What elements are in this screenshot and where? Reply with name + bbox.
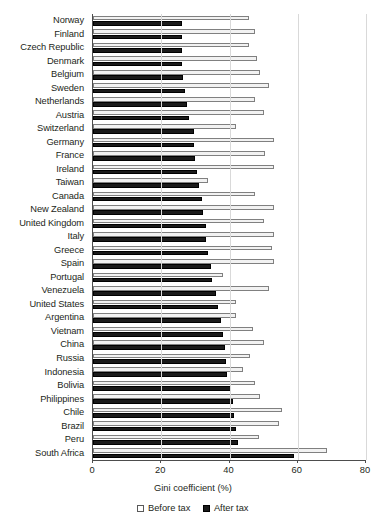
bar-after-tax <box>93 156 195 161</box>
bar-before-tax <box>93 408 282 413</box>
category-label: Italy <box>0 230 88 244</box>
category-label: Bolivia <box>0 379 88 393</box>
category-axis-labels: NorwayFinlandCzech RepublicDenmarkBelgiu… <box>0 14 88 460</box>
category-label: Denmark <box>0 55 88 69</box>
x-axis-tick-label: 40 <box>223 465 233 475</box>
bar-before-tax <box>93 367 243 372</box>
category-label: Chile <box>0 406 88 420</box>
bar-before-tax <box>93 110 264 115</box>
bar-after-tax <box>93 210 203 215</box>
category-label: China <box>0 338 88 352</box>
bar-before-tax <box>93 300 236 305</box>
bar-before-tax <box>93 421 279 426</box>
bar-before-tax <box>93 138 274 143</box>
bar-after-tax <box>93 62 182 67</box>
x-axis-tick-label: 60 <box>292 465 302 475</box>
legend-item-after-tax: After tax <box>203 503 248 513</box>
open-square-swatch-icon <box>137 505 144 512</box>
category-label: United Kingdom <box>0 217 88 231</box>
x-axis-tick-label: 80 <box>360 465 370 475</box>
bar-after-tax <box>93 183 199 188</box>
category-label: Brazil <box>0 419 88 433</box>
bar-before-tax <box>93 313 236 318</box>
category-label: Czech Republic <box>0 41 88 55</box>
bar-before-tax <box>93 259 274 264</box>
x-axis-tick <box>160 460 161 463</box>
bar-before-tax <box>93 286 269 291</box>
bar-after-tax <box>93 291 216 296</box>
bar-after-tax <box>93 116 189 121</box>
bar-before-tax <box>93 232 274 237</box>
bar-before-tax <box>93 56 257 61</box>
bar-after-tax <box>93 454 294 459</box>
legend-item-before-tax: Before tax <box>137 503 190 513</box>
bar-after-tax <box>93 413 234 418</box>
bar-after-tax <box>93 278 212 283</box>
bar-before-tax <box>93 435 259 440</box>
bar-after-tax <box>93 143 194 148</box>
x-axis-tick <box>92 460 93 463</box>
category-label: Indonesia <box>0 365 88 379</box>
category-label: Russia <box>0 352 88 366</box>
x-axis-tick-label: 20 <box>155 465 165 475</box>
bar-after-tax <box>93 197 202 202</box>
bar-after-tax <box>93 264 211 269</box>
bar-before-tax <box>93 124 236 129</box>
bar-before-tax <box>93 70 260 75</box>
legend-label-after-tax: After tax <box>214 503 249 513</box>
category-label: Switzerland <box>0 122 88 136</box>
bar-after-tax <box>93 102 187 107</box>
bar-before-tax <box>93 178 208 183</box>
x-axis-tick-label: 0 <box>89 465 94 475</box>
category-label: Vietnam <box>0 325 88 339</box>
bar-before-tax <box>93 83 269 88</box>
bar-before-tax <box>93 165 274 170</box>
bar-after-tax <box>93 89 185 94</box>
bar-after-tax <box>93 359 226 364</box>
bar-after-tax <box>93 318 221 323</box>
bar-before-tax <box>93 16 249 21</box>
bar-after-tax <box>93 21 182 26</box>
gridline <box>230 14 231 460</box>
bar-after-tax <box>93 237 206 242</box>
plot-wrapper: NorwayFinlandCzech RepublicDenmarkBelgiu… <box>0 0 386 466</box>
bar-after-tax <box>93 399 233 404</box>
plot-area <box>92 14 366 460</box>
category-label: Portugal <box>0 271 88 285</box>
bar-after-tax <box>93 224 206 229</box>
category-label: Peru <box>0 433 88 447</box>
bar-before-tax <box>93 29 255 34</box>
category-label: Sweden <box>0 82 88 96</box>
category-label: France <box>0 149 88 163</box>
category-label: Greece <box>0 244 88 258</box>
bar-before-tax <box>93 97 255 102</box>
bar-after-tax <box>93 440 238 445</box>
category-label: Philippines <box>0 392 88 406</box>
category-label: Germany <box>0 136 88 150</box>
category-label: Canada <box>0 190 88 204</box>
chart-legend: Before tax After tax <box>0 503 386 513</box>
bar-before-tax <box>93 246 272 251</box>
bar-before-tax <box>93 354 250 359</box>
bar-after-tax <box>93 170 197 175</box>
bar-before-tax <box>93 219 264 224</box>
category-label: Venezuela <box>0 284 88 298</box>
bar-after-tax <box>93 345 225 350</box>
bar-after-tax <box>93 305 218 310</box>
category-label: Norway <box>0 14 88 28</box>
bar-after-tax <box>93 48 182 53</box>
bar-after-tax <box>93 75 183 80</box>
category-label: Austria <box>0 109 88 123</box>
bar-before-tax <box>93 273 223 278</box>
category-label: Spain <box>0 257 88 271</box>
bar-after-tax <box>93 129 194 134</box>
x-axis-tick <box>229 460 230 463</box>
x-axis-tick <box>297 460 298 463</box>
bar-after-tax <box>93 427 236 432</box>
gini-coefficient-bar-chart: NorwayFinlandCzech RepublicDenmarkBelgiu… <box>0 0 386 530</box>
category-label: Ireland <box>0 163 88 177</box>
category-label: Finland <box>0 28 88 42</box>
bar-after-tax <box>93 332 223 337</box>
category-label: Taiwan <box>0 176 88 190</box>
bar-before-tax <box>93 340 264 345</box>
